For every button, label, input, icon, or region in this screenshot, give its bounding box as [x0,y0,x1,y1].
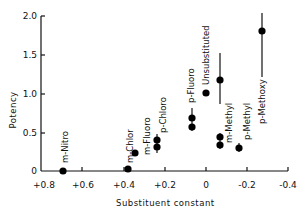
x-tick-label: +0.8 [33,180,55,190]
y-axis-title: Potency [8,91,18,128]
data-point [216,76,223,83]
data-point [235,144,242,151]
x-axis-title: Substituent constant [116,198,215,208]
point-label: p-Methoxy [257,79,267,124]
y-axis [41,16,45,171]
point-label: p-Fluoro [186,68,196,103]
x-axis [41,167,288,171]
data-point [216,133,223,140]
x-tick-label: -0.4 [279,180,297,190]
data-point [124,165,131,172]
data-point [258,27,265,34]
point-label: m-Chlor [125,129,135,163]
point-label: m-Methyl [224,103,234,143]
data-point [188,123,195,130]
point-label: p-Chloro [158,97,168,133]
data-point [188,114,195,121]
point-label: m-Fluoro [142,117,152,155]
y-tick-label: 1.0 [23,89,38,99]
x-tick-label: -0.2 [238,180,256,190]
x-tick-label: +0.2 [154,180,176,190]
y-tick-label: 1.5 [23,50,37,60]
data-point [216,141,223,148]
x-tick-label: +0.4 [113,180,135,190]
point-label: m-Nitro [60,131,70,163]
point-label: Unsubstituted [201,25,211,85]
data-point [202,89,209,96]
x-tick-label: +0.6 [72,180,94,190]
data-point [153,136,160,143]
x-tick-label: 0 [203,180,209,190]
y-tick-label: 0.5 [23,128,37,138]
scatter-chart: 2.0 1.5 1.0 0.5 0 +0.8 +0.6 +0.4 +0.2 0 … [0,0,304,215]
y-tick-label: 2.0 [23,11,38,21]
point-label: p-Methyl [242,103,252,140]
y-tick-label: 0 [31,166,37,176]
data-point [59,167,66,174]
data-point [153,143,160,150]
